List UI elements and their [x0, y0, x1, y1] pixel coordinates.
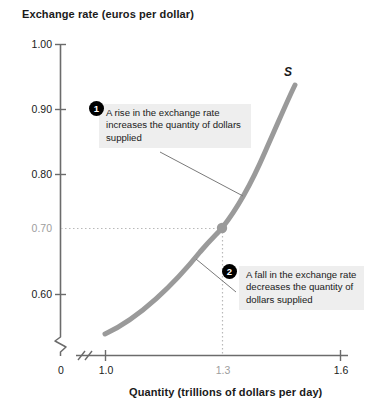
annotation-badge-2: 2 — [222, 264, 237, 279]
x-tick-label-0: 0 — [44, 364, 78, 376]
y-tick-label-1.00: 1.00 — [18, 38, 52, 50]
x-tick-label-1.6: 1.6 — [324, 364, 358, 376]
supply-curve-label: S — [284, 65, 292, 79]
annotation-callout-2: A fall in the exchange rate decreases th… — [239, 266, 364, 310]
y-tick-label-0.70: 0.70 — [18, 222, 52, 234]
y-tick-label-0.90: 0.90 — [18, 103, 52, 115]
y-axis-break-icon — [55, 330, 66, 356]
x-axis-title: Quantity (trillions of dollars per day) — [129, 386, 322, 398]
chart-plot-area — [0, 0, 371, 411]
x-tick-label-1.0: 1.0 — [89, 364, 123, 376]
annotation-callout-1: A rise in the exchange rate increases th… — [99, 104, 251, 148]
y-tick-label-0.60: 0.60 — [18, 288, 52, 300]
y-tick-label-0.80: 0.80 — [18, 168, 52, 180]
x-tick-label-1.3: 1.3 — [206, 364, 240, 376]
equilibrium-point — [217, 223, 227, 233]
y-axis-title: Exchange rate (euros per dollar) — [22, 8, 194, 20]
exchange-rate-supply-chart: Exchange rate (euros per dollar) Quantit… — [0, 0, 371, 411]
callout-1-leader-line — [160, 152, 243, 196]
annotation-badge-1: 1 — [89, 101, 104, 116]
